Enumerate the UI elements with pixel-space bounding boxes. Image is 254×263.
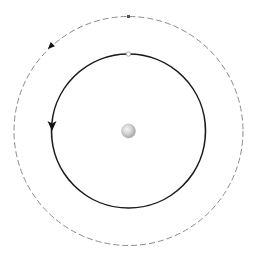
central-body xyxy=(122,124,136,138)
outer-orbit-arrow-icon xyxy=(46,42,55,51)
outer-orbit-marker xyxy=(127,15,130,18)
orbit-diagram xyxy=(0,0,254,263)
inner-orbit-marker xyxy=(126,52,130,56)
